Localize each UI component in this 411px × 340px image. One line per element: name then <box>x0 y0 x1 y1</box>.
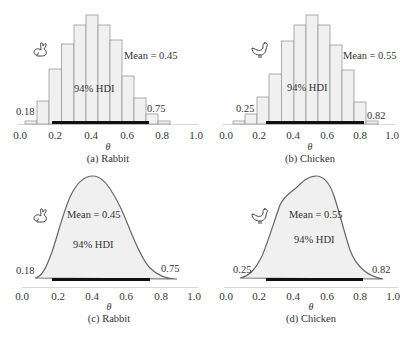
x-tick: 1.0 <box>187 290 201 302</box>
hdi-low-label: 0.18 <box>16 265 34 276</box>
x-tick: 0.2 <box>252 129 266 141</box>
mean-label: Mean = 0.45 <box>67 209 120 220</box>
x-tick: 1.0 <box>189 129 203 141</box>
panel-c-rabbit-kde: Mean = 0.45 94% HDI 0.18 0.75 0.0 0.2 0.… <box>15 176 201 325</box>
panel-caption: (c) Rabbit <box>88 313 130 325</box>
histogram-bar <box>245 114 257 124</box>
chicken-icon <box>252 42 267 58</box>
hdi-high-label: 0.82 <box>372 264 390 275</box>
mean-label: Mean = 0.45 <box>124 50 177 61</box>
mean-label: Mean = 0.55 <box>343 50 396 61</box>
density-curve <box>35 176 177 279</box>
histogram-bar <box>86 15 98 124</box>
panel-b-chicken-histogram: Mean = 0.55 94% HDI 0.25 0.82 0.0 0.2 0.… <box>219 15 399 165</box>
hdi-label: 94% HDI <box>73 239 114 250</box>
x-tick: 0.2 <box>48 129 62 141</box>
x-axis-label: θ <box>107 301 112 312</box>
x-tick: 0.4 <box>286 129 300 141</box>
histogram-bar <box>122 76 134 124</box>
x-tick: 0.0 <box>13 129 27 141</box>
x-axis-label: θ <box>309 301 314 312</box>
histogram-bar <box>49 69 62 124</box>
x-tick: 0.4 <box>85 290 99 302</box>
x-tick: 0.4 <box>84 129 98 141</box>
hdi-low-label: 0.25 <box>233 264 251 275</box>
x-tick: 0.0 <box>219 129 233 141</box>
hdi-label: 94% HDI <box>294 234 335 245</box>
histogram-bar <box>134 98 146 124</box>
x-tick: 0.8 <box>353 290 367 302</box>
figure-canvas: Mean = 0.45 94% HDI 0.18 0.75 0.0 0.2 0.… <box>0 0 411 340</box>
x-axis-label: θ <box>308 141 313 152</box>
x-tick: 0.2 <box>51 290 65 302</box>
hdi-high-label: 0.82 <box>367 110 385 121</box>
histogram-bar <box>37 101 49 124</box>
density-curve <box>240 176 383 279</box>
x-tick: 0.2 <box>252 290 266 302</box>
mean-label: Mean = 0.55 <box>289 209 342 220</box>
histogram-bar <box>342 70 354 124</box>
x-tick: 1.0 <box>385 129 399 141</box>
histogram-bars <box>233 15 378 124</box>
hdi-label: 94% HDI <box>74 83 115 94</box>
histogram-bar <box>366 121 378 124</box>
hdi-high-label: 0.75 <box>147 103 165 114</box>
histogram-bar <box>318 25 330 124</box>
histogram-bar <box>354 102 366 124</box>
hdi-low-label: 0.18 <box>16 106 34 117</box>
histogram-bar <box>25 121 37 124</box>
x-axis-label: θ <box>106 141 111 152</box>
histogram-bar <box>294 25 306 124</box>
histogram-bar <box>62 44 75 124</box>
panel-d-chicken-kde: Mean = 0.55 94% HDI 0.25 0.82 0.0 0.2 0.… <box>219 176 400 325</box>
rabbit-icon <box>34 209 46 222</box>
x-tick-labels: 0.0 0.2 0.4 0.6 0.8 1.0 <box>219 129 399 141</box>
histogram-bar <box>330 45 342 124</box>
x-tick: 0.4 <box>286 290 300 302</box>
histogram-bar <box>269 74 282 124</box>
x-tick: 0.8 <box>353 129 367 141</box>
histogram-bar <box>306 15 318 124</box>
x-tick-labels: 0.0 0.2 0.4 0.6 0.8 1.0 <box>13 129 203 141</box>
hdi-low-label: 0.25 <box>236 103 254 114</box>
panel-caption: (d) Chicken <box>286 313 337 325</box>
x-tick: 0.0 <box>15 290 29 302</box>
histogram-bar <box>257 97 269 124</box>
x-tick: 0.6 <box>120 129 134 141</box>
panel-caption: (a) Rabbit <box>87 153 129 165</box>
x-tick: 0.6 <box>320 290 334 302</box>
rabbit-icon <box>34 43 46 56</box>
hdi-high-label: 0.75 <box>161 263 179 274</box>
hdi-label: 94% HDI <box>287 82 328 93</box>
x-tick: 0.0 <box>219 290 233 302</box>
chicken-icon <box>252 208 267 224</box>
histogram-bar <box>98 25 110 124</box>
x-tick: 0.8 <box>154 290 168 302</box>
histogram-bar <box>233 121 245 124</box>
histogram-bar <box>74 25 86 124</box>
panel-caption: (b) Chicken <box>285 153 336 165</box>
histogram-bar <box>110 40 122 124</box>
x-tick: 1.0 <box>386 290 400 302</box>
x-tick: 0.8 <box>155 129 169 141</box>
x-tick: 0.6 <box>119 290 133 302</box>
panel-a-rabbit-histogram: Mean = 0.45 94% HDI 0.18 0.75 0.0 0.2 0.… <box>13 15 203 165</box>
histogram-bar <box>158 121 170 124</box>
x-tick: 0.6 <box>320 129 334 141</box>
